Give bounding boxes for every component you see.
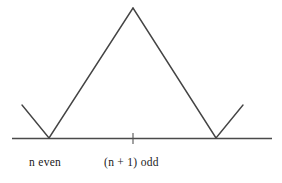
right-wing-segment [216,105,243,138]
triangle-right-edge [133,8,216,138]
label-n-plus-one-odd: (n + 1) odd [104,157,159,169]
left-wing-segment [22,105,49,138]
figure-container: n even (n + 1) odd [0,0,282,183]
label-n-even: n even [29,157,61,169]
triangle-left-edge [49,8,133,138]
